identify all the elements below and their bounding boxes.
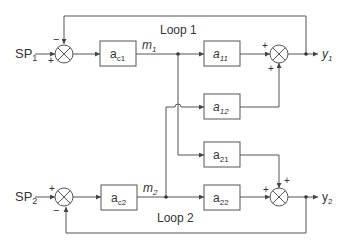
sign-sp2-feedback: −	[53, 204, 59, 216]
block-diagram: SP1 − + ac1 m1 Loop 1 a11 + + y1 a12	[0, 0, 346, 247]
m2-to-a12-line	[166, 104, 204, 197]
sign-sp2-input: +	[49, 183, 55, 194]
sign-y2-a22: +	[263, 184, 269, 195]
summing-junction-1	[55, 45, 73, 63]
sign-y1-a11: +	[262, 40, 268, 51]
m1-to-a21-line	[178, 54, 204, 155]
process-a11-block: a11	[204, 41, 240, 66]
sp1-label: SP1	[15, 46, 37, 63]
summing-junction-y2	[270, 188, 288, 206]
sp2-label: SP2	[15, 189, 37, 206]
controller-ac2-block: ac2	[101, 185, 137, 210]
sign-sp1-input: +	[48, 55, 54, 66]
process-a12-block: a12	[204, 94, 240, 119]
m2-label: m2	[143, 181, 158, 197]
process-a22-block: a22	[204, 185, 240, 210]
controller-ac1-block: ac1	[100, 41, 136, 66]
loop2-label: Loop 2	[157, 211, 194, 225]
sign-sp1-feedback: −	[53, 33, 59, 45]
loop1-label: Loop 1	[160, 23, 197, 37]
m2-branch-node	[164, 195, 168, 199]
y2-label: y2	[322, 190, 333, 206]
a21-to-sum4-line	[240, 155, 279, 188]
y1-label: y1	[321, 47, 332, 63]
sign-y2-a21: +	[284, 175, 290, 186]
sign-y1-a12: +	[268, 63, 274, 74]
process-a21-block: a21	[204, 142, 240, 167]
y1-branch-node	[304, 52, 308, 56]
summing-junction-y1	[270, 45, 288, 63]
m1-label: m1	[142, 38, 156, 54]
